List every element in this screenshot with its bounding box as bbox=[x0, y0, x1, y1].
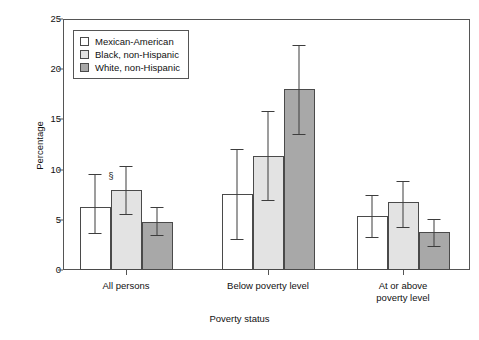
legend-label: White, non-Hispanic bbox=[95, 63, 180, 73]
legend-item: White, non-Hispanic bbox=[80, 61, 180, 74]
error-bar-cap-upper bbox=[231, 149, 244, 150]
error-bar-line bbox=[372, 195, 373, 237]
legend-swatch-white-non-hispanic bbox=[80, 63, 89, 72]
error-bar-cap-upper bbox=[293, 45, 306, 46]
error-bar-cap-upper bbox=[428, 219, 441, 220]
x-axis-tick-label-line: poverty level bbox=[376, 292, 429, 304]
error-bar-cap-upper bbox=[262, 111, 275, 112]
bar-chart: Percentage 0510152025 § All personsBelow… bbox=[0, 0, 479, 340]
y-axis-tick-label: 0 bbox=[0, 265, 61, 275]
error-bar-cap-lower bbox=[293, 134, 306, 135]
x-axis-tick-label: All persons bbox=[103, 280, 150, 292]
error-bar-cap-upper bbox=[151, 207, 164, 208]
error-bar bbox=[142, 207, 173, 235]
x-axis-tick-label-line: All persons bbox=[103, 280, 150, 292]
x-axis-tick-label-line: Below poverty level bbox=[227, 280, 309, 292]
legend: Mexican-American Black, non-Hispanic Whi… bbox=[73, 30, 189, 79]
error-bar-line bbox=[299, 45, 300, 134]
error-bar bbox=[253, 111, 284, 199]
x-axis-tick-mark bbox=[126, 270, 127, 275]
y-axis-tick-label: 10 bbox=[0, 165, 61, 175]
error-bar bbox=[357, 195, 388, 237]
error-bar-cap-lower bbox=[231, 239, 244, 240]
error-bar-line bbox=[126, 166, 127, 214]
x-axis-tick-mark bbox=[268, 270, 269, 275]
error-bar-cap-upper bbox=[120, 166, 133, 167]
error-bar-cap-lower bbox=[397, 227, 410, 228]
y-axis-tick-label: 20 bbox=[0, 64, 61, 74]
error-bar-line bbox=[403, 181, 404, 227]
x-axis-tick-label-line: At or above bbox=[376, 280, 429, 292]
y-axis-tick-label: 5 bbox=[0, 215, 61, 225]
error-bar bbox=[111, 166, 142, 214]
x-axis-title: Poverty status bbox=[0, 313, 479, 324]
x-axis-tick-mark bbox=[403, 270, 404, 275]
error-bar-line bbox=[434, 219, 435, 246]
error-bar-cap-lower bbox=[428, 246, 441, 247]
legend-label: Mexican-American bbox=[95, 37, 174, 47]
error-bar bbox=[222, 149, 253, 239]
error-bar bbox=[284, 45, 315, 134]
error-bar-cap-lower bbox=[262, 200, 275, 201]
error-bar-cap-upper bbox=[397, 181, 410, 182]
legend-item: Mexican-American bbox=[80, 35, 180, 48]
y-axis-title: Percentage bbox=[34, 86, 45, 206]
error-bar-cap-lower bbox=[120, 214, 133, 215]
error-bar-cap-lower bbox=[151, 235, 164, 236]
y-axis-tick-label: 25 bbox=[0, 14, 61, 24]
error-bar-line bbox=[95, 174, 96, 233]
error-bar-line bbox=[268, 111, 269, 199]
error-bar bbox=[419, 219, 450, 246]
error-bar bbox=[388, 181, 419, 227]
error-bar bbox=[80, 174, 111, 233]
y-axis-tick-label: 15 bbox=[0, 115, 61, 125]
error-bar-line bbox=[237, 149, 238, 239]
error-bar-cap-lower bbox=[89, 233, 102, 234]
error-bar-cap-upper bbox=[366, 195, 379, 196]
legend-swatch-black-non-hispanic bbox=[80, 50, 89, 59]
legend-swatch-mexican-american bbox=[80, 37, 89, 46]
legend-item: Black, non-Hispanic bbox=[80, 48, 180, 61]
x-axis-tick-label: At or abovepoverty level bbox=[376, 280, 429, 303]
error-bar-cap-lower bbox=[366, 237, 379, 238]
x-axis-tick-label: Below poverty level bbox=[227, 280, 309, 292]
legend-label: Black, non-Hispanic bbox=[95, 50, 179, 60]
error-bar-cap-upper bbox=[89, 174, 102, 175]
error-bar-line bbox=[157, 207, 158, 235]
